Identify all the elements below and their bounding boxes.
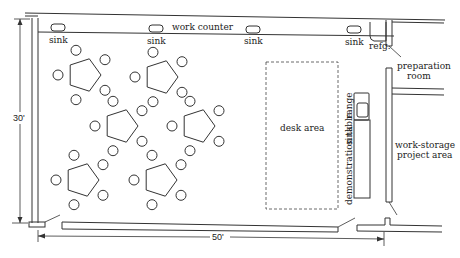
seat-icon [53,70,63,80]
seat-icon [214,136,224,146]
pentagon-table [68,164,99,196]
seat-icon [137,106,147,116]
seat-icon [108,96,118,106]
sink-label: sink [244,36,263,46]
pentagon-table [184,110,215,142]
table-group [167,96,224,155]
seat-icon [100,85,110,95]
seat-icon [69,200,79,210]
seat-icon [148,47,158,57]
pentagon-table [147,61,178,93]
seat-icon [130,72,140,82]
sink-icon [246,26,260,33]
seat-icon [177,57,187,67]
pentagon-table [70,59,101,91]
seat-icon [51,175,61,185]
preparation-room-label: preparation [397,61,451,71]
seat-icon [129,175,139,185]
demonstration-table [354,93,370,198]
demo-sink-icon [357,103,368,117]
demonstration-table-top [354,120,370,198]
table-group [51,150,108,209]
floor-plan: work counter sink sink sink sink refg. p… [0,0,460,258]
seat-icon [71,95,81,105]
sink-label: sink [345,37,364,47]
seat-icon [177,87,187,97]
demonstration-table-label: demonstration table [344,113,354,205]
seat-icon [69,150,79,160]
work-counter-label: work counter [172,22,234,32]
pentagon-table [107,110,138,142]
seat-icon [176,190,186,200]
refrigerator-label: refg. [369,41,391,51]
seat-icon [147,150,157,160]
seat-icon [108,146,118,156]
seat-icon [214,106,224,116]
preparation-room-label: room [407,71,431,81]
height-dimension-label: 30' [13,113,25,123]
desk-area-label: desk area [280,123,325,133]
seat-icon [71,45,81,55]
seat-icon [148,97,158,107]
dimension-lines [12,19,384,246]
pentagon-table [146,164,177,196]
table-group [53,45,110,104]
seat-icon [176,160,186,170]
project-area-label: project area [397,150,453,160]
student-tables [51,45,224,209]
table-group [90,96,147,155]
seat-icon [90,121,100,131]
seat-icon [100,55,110,65]
sink-label: sink [147,36,166,46]
width-dimension-label: 50' [212,232,224,242]
sink-icon [51,24,65,31]
sink-icon [347,26,361,33]
seat-icon [147,200,157,210]
work-storage-label: work-storage [395,140,455,150]
seat-icon [98,160,108,170]
seat-icon [185,146,195,156]
desk-area [266,62,338,209]
seat-icon [167,121,177,131]
sink-icon [149,25,163,32]
seat-icon [185,96,195,106]
seat-icon [137,136,147,146]
range-icon [354,93,369,120]
table-group [130,47,187,106]
table-group [129,150,186,209]
sink-label: sink [49,35,68,45]
seat-icon [98,190,108,200]
